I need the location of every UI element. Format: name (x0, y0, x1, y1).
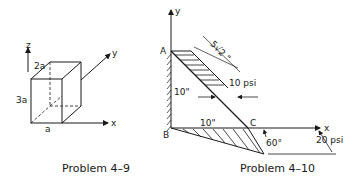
caption-problem-4-10: Problem 4–10 (240, 162, 315, 175)
hidden-edge (31, 106, 50, 123)
box-front-face (31, 79, 62, 123)
angle-arrow (264, 130, 266, 137)
caption-problem-4-9: Problem 4–9 (62, 162, 130, 175)
problem-4-10-diagram: y x 5√2 " 10 psi (160, 6, 343, 175)
point-b-label: B (163, 130, 169, 140)
angle-60-label: 60° (266, 138, 282, 148)
load-20psi-arrows (183, 129, 260, 153)
load-10psi-label: 10 psi (229, 78, 256, 88)
dimension-3a: 3a (16, 95, 27, 105)
y-axis (81, 54, 110, 80)
y-axis-hidden (50, 96, 62, 106)
point-c-label: C (250, 118, 256, 128)
fixed-wall-hatch (167, 54, 171, 131)
point-a-label: A (160, 46, 167, 56)
dimension-vertical-10in: 10" (174, 87, 190, 97)
load-20psi-label: 20 psi (316, 135, 343, 145)
z-axis-label: z (26, 40, 31, 50)
load-20psi-outline (171, 128, 264, 154)
y-axis-label: y (175, 6, 181, 16)
problem-4-9-diagram: z y x 2a 3a a Problem 4–9 (16, 40, 130, 175)
dimension-2a: 2a (34, 61, 45, 71)
dimension-horizontal-10in: 10" (200, 118, 216, 128)
dimension-a: a (45, 124, 51, 134)
y-axis-label: y (112, 48, 118, 58)
x-axis-label: x (111, 118, 117, 128)
figure-canvas: z y x 2a 3a a Problem 4–9 y (0, 0, 358, 181)
x-axis-label: x (324, 123, 330, 133)
